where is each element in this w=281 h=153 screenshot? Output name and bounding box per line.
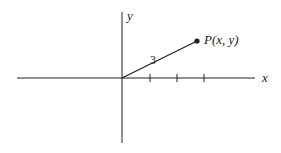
x-axis-label: x	[261, 70, 268, 85]
point-p	[194, 38, 199, 43]
segment-length-label: 3	[150, 53, 156, 67]
radius-segment	[122, 41, 197, 78]
point-label: P(x, y)	[203, 32, 239, 47]
y-axis-label: y	[125, 8, 133, 23]
coordinate-diagram: x y 3 P(x, y)	[0, 0, 281, 153]
